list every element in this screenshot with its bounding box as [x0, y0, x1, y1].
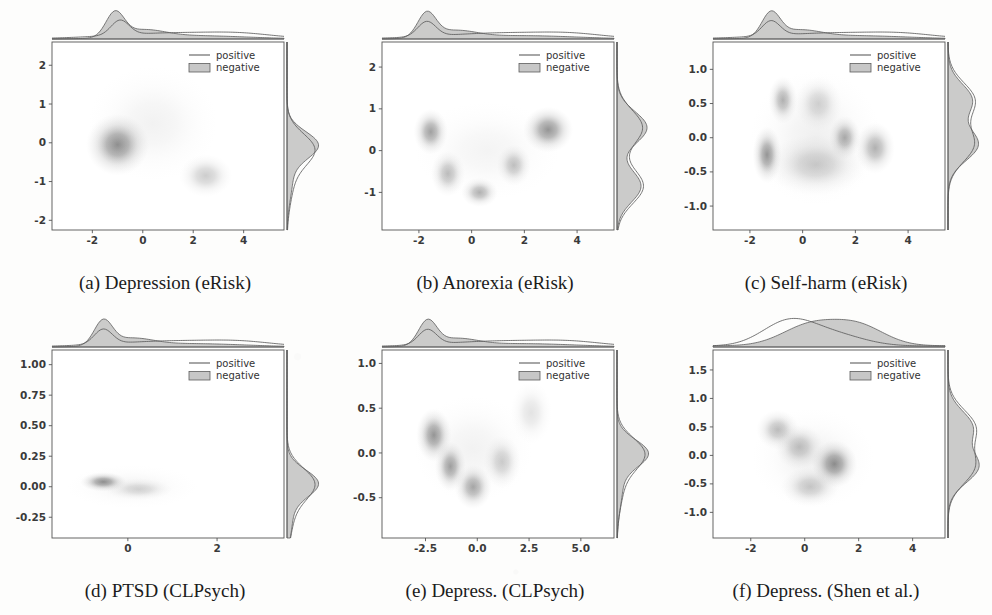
- right-marginal-kde-b: [617, 42, 647, 230]
- y-tick-label: 0.25: [20, 450, 46, 462]
- top-marginal-negative: [382, 319, 614, 347]
- y-tick-label: -0.5: [684, 477, 707, 489]
- x-tick-label: 0: [468, 234, 475, 246]
- top-marginal-kde-b: [382, 11, 614, 39]
- right-marginal-negative: [287, 42, 319, 230]
- legend-swatch-negative: [850, 64, 871, 73]
- y-tick-label: -1.0: [684, 200, 707, 212]
- y-tick-label: 2: [369, 61, 376, 73]
- figure-panel-grid: -2024210-1-2positivenegative(a) Depressi…: [0, 0, 992, 615]
- y-tick-label: 0.50: [20, 419, 46, 431]
- legend-label-positive: positive: [546, 50, 585, 61]
- x-tick-label: 2: [190, 234, 197, 246]
- right-marginal-kde-c: [948, 42, 979, 230]
- panel-caption-e: (e) Depress. (CLPsych): [330, 570, 660, 612]
- legend-c: positivenegative: [845, 46, 941, 76]
- x-tick-label: 2: [213, 542, 220, 554]
- top-marginal-kde-a: [52, 11, 284, 39]
- y-tick-label: -1.0: [684, 506, 707, 518]
- x-tick-label: -2: [87, 234, 99, 246]
- right-marginal-kde-f: [948, 350, 979, 538]
- y-tick-label: 1.0: [357, 357, 376, 369]
- top-marginal-kde-e: [382, 319, 614, 347]
- x-tick-label: 0.0: [468, 542, 487, 554]
- legend-label-negative: negative: [216, 370, 260, 381]
- right-marginal-negative: [617, 42, 647, 230]
- y-tick-label: 0: [369, 144, 376, 156]
- y-tick-label: 1.5: [688, 364, 707, 376]
- figure-panel-d: 021.000.750.500.250.00-0.25positivenegat…: [0, 308, 330, 615]
- jointplot-e: -2.50.02.55.01.00.50.0-0.5positivenegati…: [330, 308, 660, 570]
- right-marginal-negative: [287, 350, 319, 538]
- legend-label-negative: negative: [216, 62, 260, 73]
- y-tick-label: 0.00: [20, 480, 46, 492]
- legend-b: positivenegative: [514, 46, 610, 76]
- jointplot-b: -2024210-1positivenegative: [330, 0, 660, 262]
- y-tick-label: -1: [34, 175, 46, 187]
- density-blob: [750, 69, 882, 206]
- y-tick-label: 0.5: [357, 402, 376, 414]
- y-tick-label: -0.5: [684, 165, 707, 177]
- right-marginal-negative: [617, 350, 649, 538]
- y-tick-label: -0.25: [16, 511, 46, 523]
- legend-swatch-negative: [189, 372, 210, 381]
- legend-label-positive: positive: [546, 358, 585, 369]
- y-tick-label: -2: [34, 214, 46, 226]
- legend-f: positivenegative: [845, 354, 941, 384]
- top-marginal-negative: [382, 11, 614, 39]
- x-tick-label: 2: [521, 234, 528, 246]
- legend-label-positive: positive: [216, 358, 255, 369]
- x-tick-label: -2: [745, 542, 757, 554]
- right-marginal-kde-d: [287, 350, 319, 538]
- y-tick-label: 1: [39, 98, 46, 110]
- y-tick-label: 0.0: [688, 449, 707, 461]
- jointplot-d: 021.000.750.500.250.00-0.25positivenegat…: [0, 308, 330, 570]
- x-tick-label: -2: [744, 234, 756, 246]
- legend-a: positivenegative: [184, 46, 280, 76]
- legend-swatch-negative: [519, 64, 540, 73]
- top-marginal-negative: [52, 11, 284, 39]
- y-tick-label: 1.0: [688, 63, 707, 75]
- y-tick-label: 1.00: [20, 358, 46, 370]
- density-blob: [414, 100, 562, 200]
- legend-label-positive: positive: [216, 50, 255, 61]
- y-tick-label: 0.5: [688, 97, 707, 109]
- x-tick-label: 4: [904, 234, 911, 246]
- panel-caption-b: (b) Anorexia (eRisk): [330, 262, 660, 304]
- right-marginal-kde-a: [287, 42, 319, 230]
- x-tick-label: 5.0: [572, 542, 591, 554]
- x-tick-label: 4: [909, 542, 916, 554]
- x-tick-label: 4: [573, 234, 580, 246]
- density-cloud-f: [751, 407, 875, 510]
- density-blob: [65, 465, 199, 509]
- y-tick-label: 0.0: [357, 447, 376, 459]
- legend-label-negative: negative: [546, 62, 590, 73]
- density-blob: [87, 65, 218, 181]
- top-marginal-negative: [713, 11, 945, 39]
- legend-label-negative: negative: [546, 370, 590, 381]
- x-tick-label: -2: [413, 234, 425, 246]
- top-marginal-kde-c: [713, 11, 945, 39]
- x-tick-label: 0: [139, 234, 146, 246]
- legend-swatch-negative: [189, 64, 210, 73]
- legend-label-negative: negative: [877, 370, 921, 381]
- top-marginal-negative: [52, 319, 284, 347]
- y-tick-label: 1.0: [688, 392, 707, 404]
- density-blob: [413, 395, 533, 502]
- top-marginal-kde-f: [713, 318, 945, 347]
- x-tick-label: 2: [852, 234, 859, 246]
- density-cloud-d: [65, 465, 199, 509]
- y-tick-label: 0.0: [688, 131, 707, 143]
- x-tick-label: -2.5: [414, 542, 437, 554]
- y-tick-label: 0: [39, 136, 46, 148]
- legend-d: positivenegative: [184, 354, 280, 384]
- x-tick-label: 4: [240, 234, 247, 246]
- jointplot-c: -20241.00.50.0-0.5-1.0positivenegative: [660, 0, 992, 262]
- panel-caption-d: (d) PTSD (CLPsych): [0, 570, 330, 612]
- panel-caption-a: (a) Depression (eRisk): [0, 262, 330, 304]
- density-blob: [751, 407, 875, 510]
- panel-caption-f: (f) Depress. (Shen et al.): [660, 570, 992, 612]
- legend-label-positive: positive: [877, 358, 916, 369]
- figure-panel-c: -20241.00.50.0-0.5-1.0positivenegative(c…: [660, 0, 992, 308]
- legend-swatch-negative: [519, 372, 540, 381]
